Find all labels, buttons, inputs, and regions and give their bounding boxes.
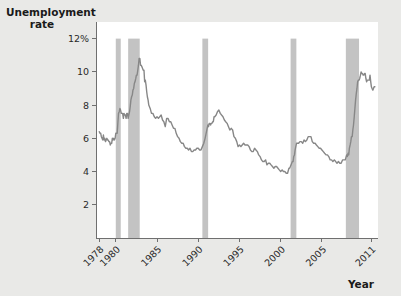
recession-band <box>291 39 297 238</box>
y-axis-tick-label: 12% <box>68 33 89 44</box>
y-axis-tick-label: 8 <box>83 100 89 111</box>
recession-band <box>346 39 359 238</box>
y-axis-title-line1: Unemployment <box>6 6 96 18</box>
y-axis-tick-label: 10 <box>77 66 89 77</box>
y-axis-tick-label: 4 <box>83 166 89 177</box>
x-axis-title: Year <box>347 278 375 290</box>
unemployment-rate-chart-figure: 12%108642 197819801985199019952000200520… <box>0 0 401 296</box>
recession-band <box>116 39 121 238</box>
y-axis-tick-label: 6 <box>83 133 89 144</box>
y-axis-title-line2: rate <box>30 18 54 30</box>
y-axis-tick-label: 2 <box>83 199 89 210</box>
chart-svg: 12%108642 197819801985199019952000200520… <box>0 0 401 296</box>
